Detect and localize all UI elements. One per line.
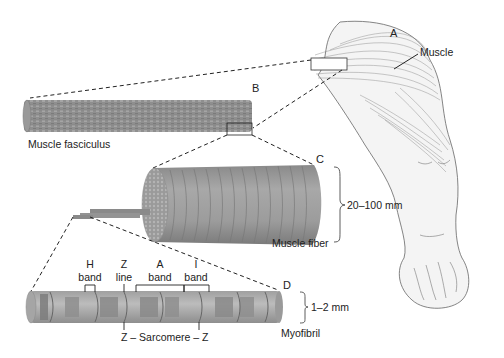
label-myofibril: Myofibril [281,327,320,339]
muscle-fiber-illustration [73,165,321,245]
label-i-band-word: band [184,271,208,283]
muscle-structure-diagram: A Muscle B Muscle fasciculus [0,0,504,358]
label-muscle: Muscle [420,46,453,58]
label-myofibril-size: 1–2 mm [311,301,349,313]
arm-illustration [311,21,469,308]
label-C: C [316,153,324,165]
h-band-bracket [85,285,95,292]
label-h-band-word: band [78,271,102,283]
label-D: D [283,279,291,291]
label-a-band-letter: A [156,258,163,270]
label-sarcomere: Z – Sarcomere – Z [121,331,209,343]
label-A: A [390,27,398,39]
zoom-lines-B-C [153,135,314,168]
label-fiber-size: 20–100 mm [347,199,403,211]
label-muscle-fiber: Muscle fiber [272,237,329,249]
label-a-band-word: band [148,271,172,283]
label-B: B [252,82,259,94]
fiber-size-brace [334,167,345,242]
band-labels: H band Z line A band I band [78,258,208,283]
i-band-bracket [184,285,209,292]
muscle-fasciculus-illustration [23,100,252,135]
label-muscle-fasciculus: Muscle fasciculus [28,138,110,150]
myofibril-illustration [26,291,283,323]
label-i-band-letter: I [195,258,198,270]
label-z-line-word: line [116,271,133,283]
sample-box-A [311,58,347,70]
a-band-bracket [136,285,184,292]
label-z-line-letter: Z [121,258,128,270]
label-h-band-letter: H [86,258,94,270]
myofibril-size-brace [300,292,308,323]
